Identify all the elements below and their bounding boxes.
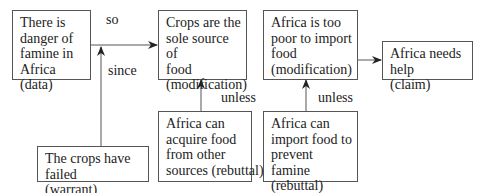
modification-box-2: Africa is too poor to import food (modif… [263, 10, 358, 80]
warrant-line-2: (warrant) [45, 182, 143, 193]
rebuttal1-line-3: from other [166, 147, 246, 163]
claim-box: Africa needs help (claim) [382, 41, 473, 80]
label-so: so [106, 12, 118, 27]
data-line-4: Africa (data) [20, 62, 85, 93]
claim-line-2: (claim) [390, 77, 467, 93]
mod1-line-2: sole source of [166, 31, 241, 62]
data-line-3: famine in [20, 46, 85, 62]
warrant-line-1: The crops have failed [45, 151, 143, 182]
data-line-2: danger of [20, 31, 85, 47]
rebuttal1-line-4: sources (rebuttal) [166, 163, 246, 179]
rebuttal2-line-3: prevent famine [271, 147, 352, 178]
data-box: There is danger of famine in Africa (dat… [12, 10, 91, 80]
data-line-1: There is [20, 15, 85, 31]
mod1-line-1: Crops are the [166, 15, 241, 31]
mod2-line-3: food [271, 46, 352, 62]
rebuttal-box-1: Africa can acquire food from other sourc… [158, 111, 252, 182]
mod2-line-4: (modification) [271, 62, 352, 78]
warrant-box: The crops have failed (warrant) [37, 146, 149, 182]
rebuttal-box-2: Africa can import food to prevent famine… [263, 111, 358, 182]
mod1-line-3: food [166, 62, 241, 78]
rebuttal1-line-1: Africa can [166, 116, 246, 132]
claim-line-1: Africa needs help [390, 46, 467, 77]
rebuttal2-line-2: import food to [271, 132, 352, 148]
modification-box-1: Crops are the sole source of food (modif… [158, 10, 247, 80]
label-unless-1: unless [221, 90, 256, 105]
mod2-line-2: poor to import [271, 31, 352, 47]
rebuttal2-line-4: (rebuttal) [271, 178, 352, 193]
mod2-line-1: Africa is too [271, 15, 352, 31]
rebuttal1-line-2: acquire food [166, 132, 246, 148]
rebuttal2-line-1: Africa can [271, 116, 352, 132]
label-unless-2: unless [318, 90, 353, 105]
label-since: since [108, 63, 137, 78]
